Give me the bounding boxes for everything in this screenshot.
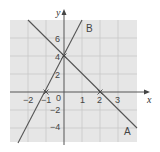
y-tick-2: 2: [55, 70, 60, 80]
y-tick-m2: −2: [50, 105, 60, 115]
y-axis-arrow-icon: [62, 9, 67, 15]
x-axis-label: x: [146, 94, 152, 105]
x-tick-1: 1: [80, 95, 85, 105]
x-tick-0: 0: [56, 93, 61, 103]
x-tick-m2: −2: [23, 95, 33, 105]
line-b-label: B: [86, 23, 93, 34]
line-a-label: A: [124, 126, 131, 137]
x-tick-3: 3: [115, 95, 120, 105]
y-axis-label: y: [55, 7, 61, 18]
x-tick-m1: −1: [41, 95, 51, 105]
x-tick-2: 2: [97, 95, 102, 105]
graph-chart: y x B A −2 −1 0 1 2 3 6 4 2 −2 −4: [0, 0, 160, 152]
y-tick-4: 4: [55, 52, 60, 62]
y-tick-6: 6: [55, 34, 60, 44]
y-tick-m4: −4: [50, 122, 60, 132]
